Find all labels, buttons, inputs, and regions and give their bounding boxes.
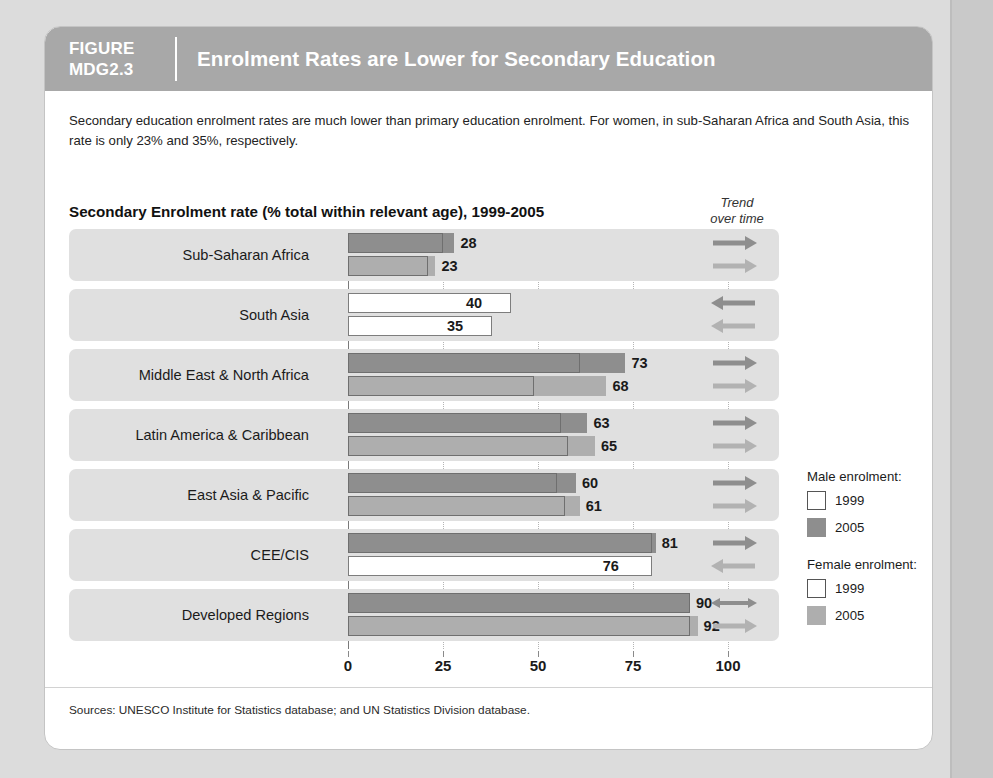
- bar-male-1999: [348, 593, 690, 613]
- chart-row: East Asia & Pacific6061: [69, 469, 779, 521]
- category-label: South Asia: [69, 289, 321, 341]
- trend-cell: [689, 529, 779, 581]
- figure-description: Secondary education enrolment rates are …: [69, 111, 914, 151]
- bar-female-1999: [348, 376, 534, 396]
- bar-value-label: 28: [460, 233, 476, 253]
- trend-cell: [689, 229, 779, 281]
- bar-value-label: 65: [601, 436, 617, 456]
- trend-arrow-female-left-icon: [709, 316, 759, 336]
- bar-female-1999: [348, 616, 690, 636]
- legend-spacer: [807, 545, 927, 557]
- header-divider: [175, 37, 177, 81]
- figure-number: FIGURE MDG2.3: [69, 38, 173, 80]
- legend-swatch-male-1999: [807, 491, 826, 510]
- chart-row: Developed Regions9092: [69, 589, 779, 641]
- bar-female-1999: [348, 436, 568, 456]
- chart-row: Latin America & Caribbean6365: [69, 409, 779, 461]
- bar-value-label: 73: [631, 353, 647, 373]
- chart-row: Middle East & North Africa7368: [69, 349, 779, 401]
- bar-male-1999: [348, 293, 511, 313]
- legend-swatch-female-2005: [807, 606, 826, 625]
- figure-tag-line1: FIGURE: [69, 38, 173, 59]
- bar-male-1999: [348, 413, 561, 433]
- trend-arrow-female-right-icon: [709, 376, 759, 396]
- bar-value-label: 61: [586, 496, 602, 516]
- bar-value-label: 68: [612, 376, 628, 396]
- trend-arrow-female-right-icon: [709, 256, 759, 276]
- chart-row: CEE/CIS8176: [69, 529, 779, 581]
- legend-male-title: Male enrolment:: [807, 469, 927, 484]
- category-label: Middle East & North Africa: [69, 349, 321, 401]
- trend-arrow-male-right-icon: [709, 473, 759, 493]
- legend-item-male-2005: 2005: [807, 518, 927, 537]
- trend-arrow-male-left-icon: [709, 293, 759, 313]
- category-label: Developed Regions: [69, 589, 321, 641]
- chart-legend: Male enrolment: 1999 2005 Female enrolme…: [807, 469, 927, 633]
- bar-male-1999: [348, 233, 443, 253]
- figure-title: Enrolment Rates are Lower for Secondary …: [197, 47, 716, 71]
- legend-label-male-1999: 1999: [835, 493, 864, 508]
- tick-label-75: 75: [625, 657, 642, 674]
- trend-arrow-female-left-icon: [709, 556, 759, 576]
- page-background: FIGURE MDG2.3 Enrolment Rates are Lower …: [0, 0, 993, 778]
- tick-label-25: 25: [435, 657, 452, 674]
- figure-card: FIGURE MDG2.3 Enrolment Rates are Lower …: [44, 26, 933, 750]
- trend-cell: [689, 289, 779, 341]
- trend-arrow-male-right-icon: [709, 233, 759, 253]
- page-gutter: [950, 0, 993, 778]
- chart-row: South Asia4035: [69, 289, 779, 341]
- legend-label-male-2005: 2005: [835, 520, 864, 535]
- chart-title: Secondary Enrolment rate (% total within…: [69, 203, 544, 220]
- bar-value-label: 81: [662, 533, 678, 553]
- trend-arrow-male-right-icon: [709, 353, 759, 373]
- figure-tag-line2: MDG2.3: [69, 59, 173, 80]
- bar-value-label: 63: [593, 413, 609, 433]
- legend-label-female-1999: 1999: [835, 581, 864, 596]
- figure-sources: Sources: UNESCO Institute for Statistics…: [69, 703, 530, 717]
- trend-column-header: Trend over time: [692, 195, 782, 227]
- bar-value-label: 23: [441, 256, 457, 276]
- chart-row: Sub-Saharan Africa2823: [69, 229, 779, 281]
- legend-item-female-1999: 1999: [807, 579, 927, 598]
- legend-label-female-2005: 2005: [835, 608, 864, 623]
- tick-label-100: 100: [715, 657, 740, 674]
- category-label: Sub-Saharan Africa: [69, 229, 321, 281]
- category-label: CEE/CIS: [69, 529, 321, 581]
- trend-cell: [689, 589, 779, 641]
- trend-arrow-male-right-icon: [709, 533, 759, 553]
- trend-header-line1: Trend: [692, 195, 782, 211]
- category-label: East Asia & Pacific: [69, 469, 321, 521]
- bar-male-1999: [348, 353, 580, 373]
- bar-male-1999: [348, 533, 652, 553]
- trend-cell: [689, 349, 779, 401]
- bar-value-label: 60: [582, 473, 598, 493]
- chart-plot-area: Sub-Saharan Africa2823South Asia4035Midd…: [69, 229, 789, 649]
- trend-arrow-female-right-icon: [709, 496, 759, 516]
- trend-header-line2: over time: [692, 211, 782, 227]
- tick-label-0: 0: [344, 657, 352, 674]
- legend-swatch-male-2005: [807, 518, 826, 537]
- legend-female-title: Female enrolment:: [807, 557, 927, 572]
- x-axis: 0255075100: [69, 651, 789, 681]
- trend-arrow-male-right-icon: [709, 413, 759, 433]
- figure-header-band: FIGURE MDG2.3 Enrolment Rates are Lower …: [45, 27, 933, 91]
- trend-cell: [689, 409, 779, 461]
- legend-item-male-1999: 1999: [807, 491, 927, 510]
- bar-male-1999: [348, 473, 557, 493]
- trend-arrow-female-right-icon: [709, 616, 759, 636]
- sources-divider: [45, 687, 933, 688]
- legend-swatch-female-1999: [807, 579, 826, 598]
- category-label: Latin America & Caribbean: [69, 409, 321, 461]
- legend-item-female-2005: 2005: [807, 606, 927, 625]
- bar-value-label: 76: [603, 556, 619, 576]
- bar-value-label: 40: [466, 293, 482, 313]
- bar-female-1999: [348, 316, 492, 336]
- bar-female-1999: [348, 256, 428, 276]
- tick-label-50: 50: [530, 657, 547, 674]
- bar-value-label: 35: [447, 316, 463, 336]
- trend-arrow-female-right-icon: [709, 436, 759, 456]
- trend-arrow-male-both-icon: [709, 593, 759, 613]
- trend-cell: [689, 469, 779, 521]
- bar-female-1999: [348, 496, 565, 516]
